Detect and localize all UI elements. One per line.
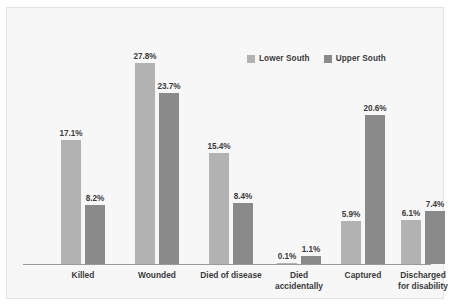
bar-value-label: 1.1% [302, 245, 321, 254]
bar-slot: 0.1% [277, 20, 297, 264]
bar-slot: 6.1% [401, 20, 421, 264]
bar-group: 5.9%20.6% [335, 20, 391, 264]
bar-value-label: 0.1% [278, 252, 297, 261]
bar-group-bars: 5.9%20.6% [335, 20, 391, 264]
bar-value-label: 6.1% [402, 209, 421, 218]
bar-group-bars: 27.8%23.7% [129, 20, 185, 264]
bar-slot: 7.4% [425, 20, 445, 264]
bar[interactable] [61, 140, 81, 264]
bar[interactable] [401, 220, 421, 264]
bar-value-label: 8.2% [86, 194, 105, 203]
bar[interactable] [425, 211, 445, 265]
bar-value-label: 15.4% [207, 142, 230, 151]
bar-slot: 15.4% [209, 20, 229, 264]
x-axis-category-line: accidentally [261, 281, 337, 292]
bar-value-label: 8.4% [234, 192, 253, 201]
bar-group: 6.1%7.4% [395, 20, 450, 264]
x-axis-category-label: Wounded [119, 270, 195, 281]
bar[interactable] [159, 93, 179, 264]
x-axis-line [23, 264, 431, 265]
bar[interactable] [233, 203, 253, 264]
x-axis-category-line: Died of disease [193, 270, 269, 281]
bar-slot: 1.1% [301, 20, 321, 264]
bar-group-bars: 6.1%7.4% [395, 20, 450, 264]
bar-value-label: 5.9% [342, 210, 361, 219]
bar[interactable] [135, 63, 155, 264]
bar-slot: 8.4% [233, 20, 253, 264]
bar-value-label: 23.7% [157, 82, 180, 91]
bar-value-label: 20.6% [363, 104, 386, 113]
bar-slot: 5.9% [341, 20, 361, 264]
bar-group-bars: 15.4%8.4% [203, 20, 259, 264]
bar[interactable] [209, 153, 229, 264]
bar-slot: 23.7% [159, 20, 179, 264]
bar-value-label: 27.8% [133, 52, 156, 61]
x-axis-category-label: Died of disease [193, 270, 269, 281]
x-axis-category-line: Wounded [119, 270, 195, 281]
x-axis-category-line: for disability [385, 281, 450, 292]
bar-slot: 17.1% [61, 20, 81, 264]
x-axis-category-label: Dischargedfor disability [385, 270, 450, 292]
x-axis-category-label: Killed [45, 270, 121, 281]
plot-area: 17.1%8.2%27.8%23.7%15.4%8.4%0.1%1.1%5.9%… [23, 20, 429, 264]
bar[interactable] [365, 115, 385, 264]
x-axis-category-line: Killed [45, 270, 121, 281]
bar-slot: 27.8% [135, 20, 155, 264]
bar-value-label: 7.4% [426, 200, 445, 209]
bar-group: 0.1%1.1% [271, 20, 327, 264]
bar-group: 27.8%23.7% [129, 20, 185, 264]
bar[interactable] [301, 256, 321, 264]
bar-slot: 8.2% [85, 20, 105, 264]
chart-panel: Lower South Upper South 17.1%8.2%27.8%23… [6, 7, 444, 299]
bar[interactable] [85, 205, 105, 264]
bar-value-label: 17.1% [59, 129, 82, 138]
bar-group: 17.1%8.2% [55, 20, 111, 264]
bar-group-bars: 17.1%8.2% [55, 20, 111, 264]
bar-group: 15.4%8.4% [203, 20, 259, 264]
bar-group-bars: 0.1%1.1% [271, 20, 327, 264]
bar-slot: 20.6% [365, 20, 385, 264]
x-axis-category-line: Discharged [385, 270, 450, 281]
bar[interactable] [341, 221, 361, 264]
